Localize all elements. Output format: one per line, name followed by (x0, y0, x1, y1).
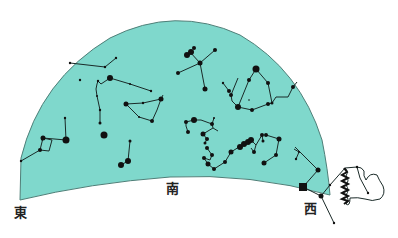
star-chart (0, 0, 398, 238)
direction-label-west: 西 (304, 202, 317, 215)
direction-label-east: 東 (14, 206, 27, 219)
sky-dome (20, 21, 330, 200)
direction-label-south: 南 (166, 182, 179, 195)
